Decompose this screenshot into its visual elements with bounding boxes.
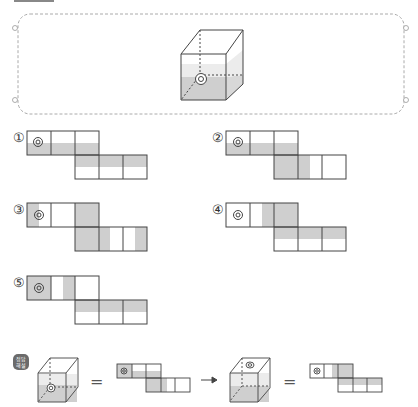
main-cube [181, 30, 243, 100]
net-option-4 [226, 203, 346, 251]
ring-hole-icon [404, 26, 409, 31]
net-option-5 [27, 276, 147, 324]
ring-hole-icon [404, 98, 409, 103]
equals-sign: = [90, 372, 103, 391]
option-label-2[interactable]: ② [212, 131, 224, 144]
hint-cube-1 [38, 358, 78, 402]
double-circle-mark-icon [196, 74, 207, 85]
hint-net-2 [310, 364, 382, 392]
net-option-2 [226, 131, 346, 179]
hint-badge: 정답 해설 [13, 354, 29, 370]
hint-cube-2 [230, 358, 270, 402]
diagram-canvas [0, 0, 418, 407]
equals-sign: = [283, 372, 296, 391]
ring-hole-icon [13, 26, 18, 31]
hint-net-1 [117, 364, 190, 392]
option-label-3[interactable]: ③ [13, 203, 25, 216]
option-label-1[interactable]: ① [13, 131, 25, 144]
net-option-3 [27, 203, 147, 251]
arrow-right-icon [201, 377, 217, 383]
option-label-4[interactable]: ④ [212, 203, 224, 216]
net-option-1 [27, 131, 147, 179]
option-label-5[interactable]: ⑤ [13, 276, 25, 289]
ring-hole-icon [13, 98, 18, 103]
